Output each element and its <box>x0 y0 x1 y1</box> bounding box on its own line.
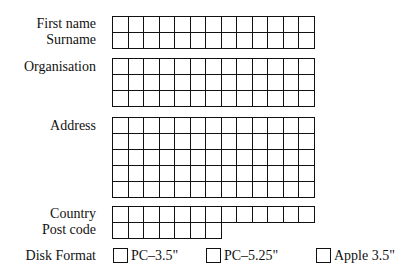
surname-field-cell[interactable] <box>175 33 191 49</box>
address-field-cell[interactable] <box>129 150 145 166</box>
organisation-field-cell[interactable] <box>206 91 222 107</box>
organisation-field-cell[interactable] <box>284 75 300 91</box>
first-name-field-cell[interactable] <box>113 17 129 33</box>
country-cell[interactable] <box>253 207 269 223</box>
surname-field-cell[interactable] <box>237 33 253 49</box>
organisation-field-cell[interactable] <box>129 75 145 91</box>
first-name-field-cell[interactable] <box>206 17 222 33</box>
address-field-cell[interactable] <box>268 118 284 134</box>
organisation-field-cell[interactable] <box>160 75 176 91</box>
country-cell[interactable] <box>175 207 191 223</box>
address-field-cell[interactable] <box>144 166 160 182</box>
post-code-cell[interactable] <box>191 223 207 239</box>
organisation-field-cell[interactable] <box>160 59 176 75</box>
organisation-field-cell[interactable] <box>206 75 222 91</box>
address-field-cell[interactable] <box>129 134 145 150</box>
address-field-cell[interactable] <box>253 150 269 166</box>
organisation-field-cell[interactable] <box>222 59 238 75</box>
organisation-field-cell[interactable] <box>299 91 315 107</box>
organisation-field-cell[interactable] <box>222 91 238 107</box>
surname-field-cell[interactable] <box>129 33 145 49</box>
address-field-cell[interactable] <box>206 118 222 134</box>
post-code-cell[interactable] <box>175 223 191 239</box>
organisation-field-cell[interactable] <box>113 59 129 75</box>
address-field-cell[interactable] <box>206 182 222 198</box>
organisation-field-cell[interactable] <box>175 75 191 91</box>
post-code-cell[interactable] <box>160 223 176 239</box>
organisation-field-cell[interactable] <box>284 59 300 75</box>
country-cell[interactable] <box>284 207 300 223</box>
country-cell[interactable] <box>206 207 222 223</box>
address-field-cell[interactable] <box>160 166 176 182</box>
organisation-field-cell[interactable] <box>253 91 269 107</box>
address-field-cell[interactable] <box>144 134 160 150</box>
address-field-cell[interactable] <box>129 182 145 198</box>
post-code-cell[interactable] <box>113 223 129 239</box>
address-field-cell[interactable] <box>175 166 191 182</box>
organisation-field-cell[interactable] <box>237 59 253 75</box>
organisation-field-cell[interactable] <box>268 91 284 107</box>
address-field-cell[interactable] <box>222 182 238 198</box>
organisation-field-cell[interactable] <box>160 91 176 107</box>
country-cell[interactable] <box>144 207 160 223</box>
address-field-cell[interactable] <box>144 118 160 134</box>
address-field-cell[interactable] <box>175 182 191 198</box>
address-field-cell[interactable] <box>222 134 238 150</box>
address-field-cell[interactable] <box>129 166 145 182</box>
address-field-cell[interactable] <box>160 118 176 134</box>
address-field-cell[interactable] <box>113 150 129 166</box>
organisation-field-cell[interactable] <box>175 91 191 107</box>
organisation-field-cell[interactable] <box>129 91 145 107</box>
first-name-field-cell[interactable] <box>253 17 269 33</box>
address-field-cell[interactable] <box>268 166 284 182</box>
country-cell[interactable] <box>160 207 176 223</box>
address-field-cell[interactable] <box>191 134 207 150</box>
organisation-field-cell[interactable] <box>299 59 315 75</box>
pc-525-checkbox[interactable] <box>206 248 221 263</box>
surname-field-cell[interactable] <box>299 33 315 49</box>
surname-field-cell[interactable] <box>144 33 160 49</box>
country-cell[interactable] <box>222 207 238 223</box>
address-field-cell[interactable] <box>222 150 238 166</box>
address-field-cell[interactable] <box>284 166 300 182</box>
address-field-cell[interactable] <box>268 150 284 166</box>
first-name-field-cell[interactable] <box>299 17 315 33</box>
address-field-cell[interactable] <box>191 182 207 198</box>
organisation-field-cell[interactable] <box>299 75 315 91</box>
first-name-field-cell[interactable] <box>284 17 300 33</box>
organisation-field-cell[interactable] <box>129 59 145 75</box>
organisation-field-cell[interactable] <box>253 75 269 91</box>
address-field-cell[interactable] <box>191 118 207 134</box>
address-field-cell[interactable] <box>206 134 222 150</box>
address-field-cell[interactable] <box>175 150 191 166</box>
organisation-field-cell[interactable] <box>175 59 191 75</box>
address-field-cell[interactable] <box>268 182 284 198</box>
surname-field-cell[interactable] <box>284 33 300 49</box>
country-cell[interactable] <box>113 207 129 223</box>
address-field-cell[interactable] <box>237 118 253 134</box>
address-field-cell[interactable] <box>175 118 191 134</box>
organisation-field-cell[interactable] <box>268 75 284 91</box>
post-code-cell[interactable] <box>206 223 222 239</box>
address-field-cell[interactable] <box>299 150 315 166</box>
organisation-field-cell[interactable] <box>237 75 253 91</box>
country-cell[interactable] <box>191 207 207 223</box>
organisation-field-cell[interactable] <box>113 75 129 91</box>
organisation-field-cell[interactable] <box>191 91 207 107</box>
address-field-cell[interactable] <box>113 118 129 134</box>
address-field-cell[interactable] <box>284 150 300 166</box>
post-code-cell[interactable] <box>144 223 160 239</box>
address-field-cell[interactable] <box>113 182 129 198</box>
organisation-field-cell[interactable] <box>253 59 269 75</box>
address-field-cell[interactable] <box>191 166 207 182</box>
first-name-field-cell[interactable] <box>175 17 191 33</box>
address-field-cell[interactable] <box>253 166 269 182</box>
apple-35-checkbox[interactable] <box>316 248 331 263</box>
address-field-cell[interactable] <box>160 134 176 150</box>
country-cell[interactable] <box>268 207 284 223</box>
surname-field-cell[interactable] <box>191 33 207 49</box>
address-field-cell[interactable] <box>237 150 253 166</box>
organisation-field-cell[interactable] <box>237 91 253 107</box>
address-field-cell[interactable] <box>160 150 176 166</box>
surname-field-cell[interactable] <box>113 33 129 49</box>
